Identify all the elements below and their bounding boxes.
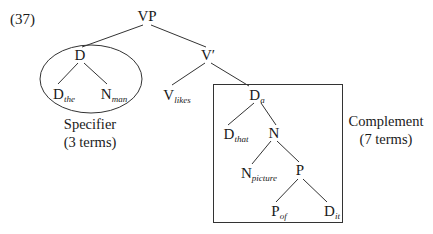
node-d-the: Dthe [53, 87, 75, 104]
node-n-man: Nman [101, 87, 127, 104]
branch-p-dit [303, 179, 327, 202]
complement-box [214, 85, 343, 223]
branch-da-n [261, 103, 276, 125]
node-d-it: Dit [324, 204, 340, 221]
node-vp: VP [137, 9, 156, 24]
branch-n-npicture [252, 141, 271, 164]
branch-d-nman [84, 63, 107, 84]
node-d-a: Da [249, 88, 264, 105]
branch-da-dthat [228, 103, 254, 125]
specifier-annotation: Specifier (3 terms) [64, 115, 117, 151]
branch-p-pof [276, 179, 298, 202]
branch-vbar-vlikes [172, 63, 205, 85]
branch-d-dthe [58, 63, 78, 84]
branch-vbar-da [211, 63, 249, 86]
complement-title: Complement [349, 112, 424, 130]
branch-n-p [277, 141, 299, 162]
branch-vp-vbar [151, 25, 206, 47]
node-d-that: Dthat [224, 127, 249, 144]
node-p: P [296, 163, 304, 178]
complement-count: (7 terms) [349, 130, 424, 148]
node-n-picture: Npicture [241, 166, 277, 183]
specifier-count: (3 terms) [64, 133, 117, 151]
node-n: N [269, 126, 280, 141]
node-d-specifier: D [75, 48, 86, 63]
specifier-title: Specifier [64, 115, 117, 133]
branch-vp-d [82, 25, 143, 47]
node-v-likes: Vlikes [163, 88, 190, 105]
complement-annotation: Complement (7 terms) [349, 112, 424, 148]
node-v-bar: V′ [201, 48, 215, 63]
example-number: (37) [10, 11, 35, 28]
node-p-of: Pof [271, 204, 286, 221]
